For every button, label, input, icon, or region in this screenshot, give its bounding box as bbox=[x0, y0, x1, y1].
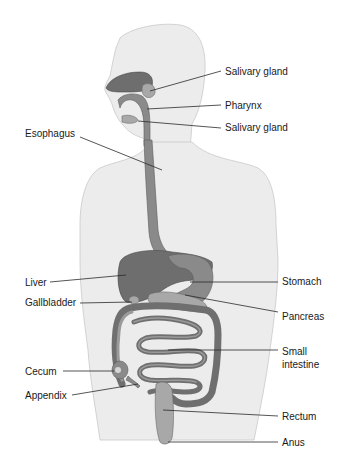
label-liver: Liver bbox=[25, 277, 47, 288]
label-esophagus: Esophagus bbox=[25, 128, 75, 139]
label-salivary-gland-lower: Salivary gland bbox=[225, 122, 288, 133]
gallbladder-shape bbox=[129, 296, 139, 304]
label-small-intestine-line2: intestine bbox=[282, 359, 320, 370]
label-cecum: Cecum bbox=[25, 366, 57, 377]
label-salivary-gland-upper: Salivary gland bbox=[225, 66, 288, 77]
label-appendix: Appendix bbox=[25, 390, 67, 401]
label-pancreas: Pancreas bbox=[282, 311, 324, 322]
label-gallbladder: Gallbladder bbox=[25, 297, 77, 308]
digestive-system-diagram: Salivary gland Pharynx Salivary gland Es… bbox=[0, 0, 339, 462]
salivary-gland-upper-shape bbox=[142, 84, 155, 98]
label-anus: Anus bbox=[282, 437, 305, 448]
rectum-shape bbox=[155, 382, 173, 444]
label-small-intestine-line1: Small bbox=[282, 346, 307, 357]
label-rectum: Rectum bbox=[282, 411, 316, 422]
label-stomach: Stomach bbox=[282, 276, 321, 287]
label-pharynx: Pharynx bbox=[225, 100, 262, 111]
